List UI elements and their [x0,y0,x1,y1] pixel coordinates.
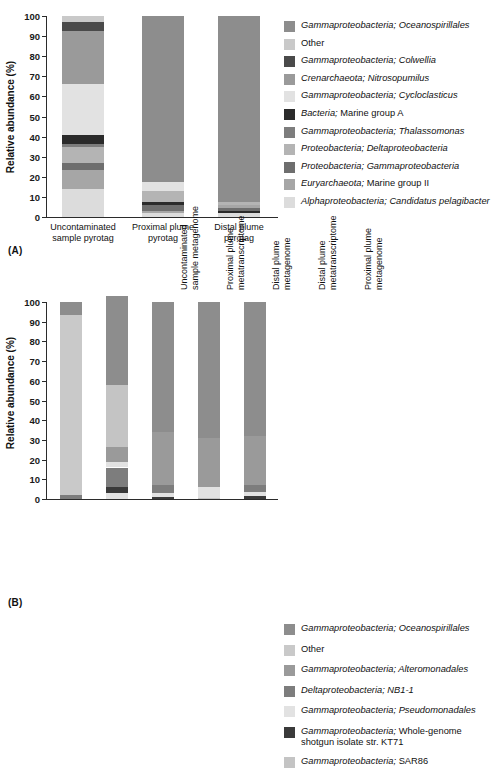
legend-item: Euryarchaeota; Marine group II [284,178,490,190]
legend-item: Gammaproteobacteria; Colwellia [284,55,490,67]
y-tick-mark [42,56,46,57]
bar-segment [62,147,104,163]
legend-label: Other [301,38,324,49]
legend-label: Gammaproteobacteria; Oceanospirillales [301,623,469,634]
x-axis-label: Distal plume metatranscriptome [317,195,339,290]
legend-item: Gammaproteobacteria; SAR86 [284,756,476,768]
panel-b-label: (B) [8,597,22,608]
legend-color-swatch [284,162,295,173]
bar-segment [152,485,174,493]
x-axis-label: Uncontaminated sample pyrotag [40,222,126,244]
bar-segment [142,211,184,213]
y-tick-label: 90 [29,31,40,42]
y-tick-mark [42,499,46,500]
y-tick-label: 40 [29,131,40,142]
bar-segment [62,170,104,189]
y-axis-title-a: Relative abundance (%) [5,60,16,172]
legend-color-swatch [284,179,295,190]
y-tick-label: 30 [29,151,40,162]
y-tick-label: 100 [24,11,40,22]
bar-segment [152,302,174,432]
stacked-bar [198,302,220,499]
bar-segment [60,315,82,495]
y-tick-mark [42,440,46,441]
legend-color-swatch [284,624,295,635]
bar-segment [62,189,104,217]
stacked-bar [218,16,260,217]
y-tick-label: 50 [29,111,40,122]
legend-color-swatch [284,757,295,768]
x-axis-label: Proximal plume metagenome [363,195,385,290]
bar-segment [62,163,104,170]
y-tick-label: 10 [29,474,40,485]
legend-item: Crenarchaeota; Nitrosopumilus [284,73,490,85]
x-axis-label: Distal plume metagenome [271,195,293,290]
y-tick-label: 70 [29,356,40,367]
y-tick-mark [42,96,46,97]
legend-item: Gammaproteobacteria; Whole-genome shotgu… [284,726,476,748]
legend-item: Gammaproteobacteria; Cycloclasticus [284,90,490,102]
bar-segment [244,492,266,496]
stacked-bar [244,302,266,499]
y-tick-mark [42,401,46,402]
y-tick-label: 100 [24,297,40,308]
panel-a-label: (A) [8,245,22,256]
y-tick-mark [42,217,46,218]
bar-segment [62,84,104,134]
y-tick-label: 60 [29,375,40,386]
stacked-bar [152,302,174,499]
x-axis-label: Uncontaminated sample metagenome [179,195,201,290]
legend-b: Gammaproteobacteria; OceanospirillalesOt… [284,623,476,772]
legend-label: Bacteria; Marine group A [301,108,403,119]
stacked-bar [62,16,104,217]
legend-color-swatch [284,109,295,120]
y-tick-mark [42,197,46,198]
bar-segment [60,302,82,315]
bar-segment [62,22,104,31]
legend-color-swatch [284,144,295,155]
y-tick-mark [42,341,46,342]
y-tick-mark [42,117,46,118]
bar-segment [142,182,184,191]
y-tick-label: 20 [29,171,40,182]
y-tick-label: 90 [29,316,40,327]
bar-segment [198,302,220,438]
bar-segment [244,485,266,492]
legend-label: Gammaproteobacteria; Alteromonadales [301,664,468,675]
y-axis-title-b: Relative abundance (%) [5,336,16,448]
bar-segment [62,31,104,84]
y-tick-mark [42,479,46,480]
legend-color-swatch [284,91,295,102]
legend-item: Gammaproteobacteria; Oceanospirillales [284,20,490,32]
legend-label: Gammaproteobacteria; Cycloclasticus [301,90,458,101]
legend-label: Deltaproteobacteria; NB1-1 [301,685,414,696]
legend-label: Proteobacteria; Deltaproteobacteria [301,143,448,154]
legend-label: Gammaproteobacteria; Oceanospirillales [301,20,469,31]
legend-color-swatch [284,74,295,85]
y-tick-mark [42,16,46,17]
legend-item: Deltaproteobacteria; NB1-1 [284,685,476,697]
bar-segment [62,144,104,147]
legend-color-swatch [284,39,295,50]
legend-label: Crenarchaeota; Nitrosopumilus [301,73,429,84]
y-tick-mark [42,137,46,138]
legend-color-swatch [284,56,295,67]
bar-segment [62,16,104,22]
stacked-bar [60,302,82,499]
legend-item: Proteobacteria; Deltaproteobacteria [284,143,490,155]
chart-b-plot-area: Relative abundance (%) 10090807060504030… [46,302,278,499]
y-tick-mark [42,460,46,461]
legend-label: Gammaproteobacteria; Thalassomonas [301,126,464,137]
y-tick-label: 70 [29,71,40,82]
bar-segment [106,493,128,499]
bar-segment [142,205,184,211]
y-tick-label: 0 [35,494,40,505]
y-tick-label: 60 [29,91,40,102]
bar-segment [218,16,260,202]
bar-segment [142,191,184,202]
y-tick-label: 40 [29,415,40,426]
legend-item: Gammaproteobacteria; Oceanospirillales [284,623,476,635]
bar-segment [152,497,174,499]
legend-label: Gammaproteobacteria; SAR86 [301,756,428,767]
panel-b: (B) Relative abundance (%) 1009080706050… [0,290,496,626]
